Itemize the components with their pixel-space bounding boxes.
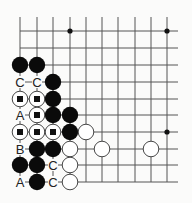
black-stone	[12, 57, 28, 73]
black-stone	[45, 74, 61, 90]
black-stone	[29, 174, 45, 190]
point-label: A	[16, 108, 25, 123]
black-stone	[12, 157, 28, 173]
white-stone	[62, 174, 78, 190]
black-stone	[45, 141, 61, 157]
point-label: C	[15, 75, 24, 90]
black-stone	[45, 107, 61, 123]
star-point-icon	[164, 129, 169, 134]
square-marker-icon	[50, 129, 56, 135]
white-stone	[62, 141, 78, 157]
black-stone	[45, 91, 61, 107]
square-marker-icon	[17, 129, 23, 135]
point-label: C	[48, 175, 57, 190]
star-point-icon	[164, 28, 169, 33]
white-stone	[78, 124, 94, 140]
black-stone	[29, 57, 45, 73]
black-stone	[29, 157, 45, 173]
square-marker-icon	[17, 96, 23, 102]
square-marker-icon	[34, 112, 40, 118]
square-marker-icon	[34, 129, 40, 135]
point-label: A	[16, 175, 25, 190]
white-stone	[62, 157, 78, 173]
point-label: C	[48, 158, 57, 173]
white-stone	[94, 141, 110, 157]
square-marker-icon	[34, 96, 40, 102]
point-label: B	[16, 142, 25, 157]
go-board: CCABCAC	[0, 0, 192, 203]
black-stone	[62, 124, 78, 140]
black-stone	[62, 107, 78, 123]
black-stone	[29, 141, 45, 157]
star-point-icon	[67, 28, 72, 33]
white-stone	[143, 141, 159, 157]
point-label: C	[32, 75, 41, 90]
